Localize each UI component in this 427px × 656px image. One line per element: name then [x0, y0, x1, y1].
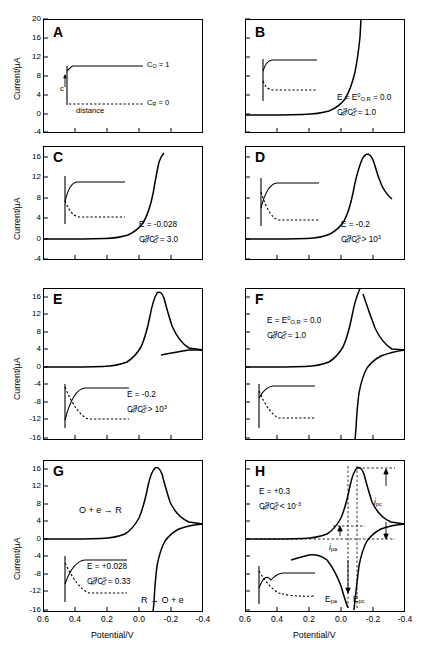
concentration-axis-label: c	[60, 85, 64, 93]
y-tick-g-8: -16	[21, 606, 41, 614]
panel-h-anodic-lower-curve	[291, 555, 348, 608]
panel-d-inset-profile	[261, 178, 319, 226]
panel-b-plot	[245, 19, 405, 133]
y-tick-e-1: 12	[23, 310, 41, 318]
concentration-ratio-annotation-c: CSR/CSO = 3.0	[139, 234, 178, 246]
x-tick-g-2: 0.2	[95, 615, 119, 624]
concentration-ratio-annotation-b: CSR/CSO = 1.0	[337, 107, 376, 119]
panel-f-cathodic-curve	[245, 288, 360, 367]
y-axis-title-row2: Current/µA	[12, 197, 22, 240]
panel-h-plot	[245, 460, 405, 612]
panel-g: G O + e → R R → O + e E = +0.028 CSR/CSO…	[43, 460, 203, 612]
panel-g-plot	[43, 460, 203, 612]
y-tick-e-8: -16	[21, 434, 41, 442]
y-tick-c-1: 12	[23, 173, 41, 181]
cathodic-peak-current-label-h: ipc	[374, 497, 382, 509]
y-tick-c-5: -4	[23, 255, 41, 263]
panel-e-plot	[43, 288, 203, 440]
potential-annotation-d: E = -0.2	[341, 219, 370, 230]
potential-annotation-e: E = -0.2	[127, 389, 156, 400]
anodic-reaction-label-g: R → O + e	[141, 594, 184, 606]
potential-annotation-h: E = +0.3	[259, 486, 290, 497]
panel-h-inset-profile	[259, 566, 315, 604]
x-tick-h-4: -0.2	[361, 615, 385, 624]
panel-c-inset-profile	[65, 176, 125, 224]
concentration-ratio-annotation-e: CSR/CSO > 103	[127, 404, 167, 416]
y-tick-a-2: 12	[23, 53, 41, 61]
c-o-label: CO = 1	[147, 61, 170, 69]
panel-a-plot	[43, 19, 203, 133]
y-tick-a-5: 0	[23, 110, 41, 118]
x-tick-g-1: 0.4	[63, 615, 87, 624]
panel-e-anodic-curve	[161, 350, 203, 355]
y-axis-title-row4: Current/µA	[12, 537, 22, 580]
panel-f-inset-profile	[259, 384, 315, 428]
panel-f-plot	[245, 288, 405, 440]
panel-c-plot	[43, 146, 203, 260]
potential-annotation-c: E = -0.028	[139, 219, 177, 230]
y-axis-title-row3: Current/µA	[12, 357, 22, 400]
y-tick-a-3: 8	[23, 72, 41, 80]
y-tick-a-6: -4	[23, 128, 41, 136]
panel-f-anodic-curve	[355, 350, 405, 440]
panel-e-cathodic-curve	[43, 292, 203, 367]
panel-d: D E = -0.2 CSR/CSO > 103	[245, 146, 405, 260]
potential-annotation-f: E = E0O,R = 0.0	[267, 315, 321, 327]
y-tick-c-2: 8	[23, 194, 41, 202]
x-tick-h-5: -0.4	[393, 615, 417, 624]
x-tick-g-0: 0.6	[31, 615, 55, 624]
panel-c: C E = -0.028 CSR/CSO = 3.0 16 12 8 4 0 -…	[43, 146, 203, 260]
y-tick-e-6: -8	[23, 398, 41, 406]
y-tick-g-4: 0	[23, 535, 41, 543]
y-tick-g-2: 8	[23, 500, 41, 508]
x-tick-g-5: -0.4	[191, 615, 215, 624]
y-tick-e-2: 8	[23, 328, 41, 336]
panel-f: F E = E0O,R = 0.0 CSR/CSO = 1.0	[245, 288, 405, 440]
y-tick-a-4: 4	[23, 91, 41, 99]
x-tick-g-3: 0.0	[127, 615, 151, 624]
x-tick-h-2: 0.2	[297, 615, 321, 624]
potential-annotation-g: E = +0.028	[87, 561, 127, 572]
y-tick-c-4: 0	[23, 235, 41, 243]
y-tick-g-0: 16	[23, 465, 41, 473]
y-tick-e-7: -12	[21, 415, 41, 423]
panel-h: H	[245, 460, 405, 612]
panel-b: B E = E0O,R = 0.0 CSR/CSO = 1.0	[245, 19, 405, 133]
c-r-label: CR = 0	[147, 99, 169, 107]
panel-f-cathodic-decay	[363, 294, 405, 350]
y-tick-e-4: 0	[23, 363, 41, 371]
x-tick-h-1: 0.4	[265, 615, 289, 624]
anodic-peak-current-label-h: ipa	[329, 542, 337, 554]
anodic-peak-potential-label-h: Epa	[325, 594, 337, 606]
concentration-ratio-annotation-g: CSR/CSO = 0.33	[87, 576, 131, 588]
y-tick-e-0: 16	[23, 293, 41, 301]
x-tick-h-0: 0.6	[233, 615, 257, 624]
y-axis-title-row1: Current/µA	[12, 57, 22, 100]
y-tick-c-3: 4	[23, 214, 41, 222]
x-tick-h-3: 0.0	[329, 615, 353, 624]
distance-label: distance	[76, 107, 104, 115]
concentration-ratio-annotation-f: CSR/CSO = 1.0	[267, 330, 306, 342]
concentration-ratio-annotation-d: CSR/CSO > 103	[341, 234, 381, 246]
concentration-ratio-annotation-h: CSR/CSO < 10-3	[259, 501, 301, 513]
y-tick-g-1: 12	[23, 482, 41, 490]
panel-b-inset-profile	[263, 59, 317, 101]
figure-cyclic-voltammetry: Current/µA Current/µA Current/µA Current…	[0, 0, 427, 656]
y-tick-e-5: -4	[23, 380, 41, 388]
y-tick-g-7: -12	[21, 587, 41, 595]
potential-annotation-b: E = E0O,R = 0.0	[337, 92, 391, 104]
panel-a: A c distance CO = 1 CR = 0 20	[43, 19, 203, 133]
y-tick-g-6: -8	[23, 570, 41, 578]
y-tick-g-5: -4	[23, 552, 41, 560]
x-tick-g-4: -0.2	[159, 615, 183, 624]
panel-e-inset-profile	[65, 384, 129, 428]
y-tick-c-0: 16	[23, 153, 41, 161]
y-tick-a-0: 20	[23, 15, 41, 23]
y-tick-e-3: 4	[23, 345, 41, 353]
y-tick-a-1: 16	[23, 34, 41, 42]
cathodic-reaction-label-g: O + e → R	[79, 504, 122, 516]
panel-a-inset-profile	[63, 66, 143, 105]
panel-e: E E = -0.2 CSR/CSO > 103 16 12 8 4	[43, 288, 203, 440]
cathodic-peak-potential-label-h: Epc	[353, 594, 365, 606]
x-axis-title-g: Potential/V	[91, 631, 134, 640]
